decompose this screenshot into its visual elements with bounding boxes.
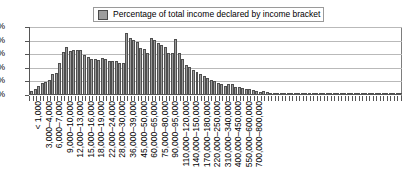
x-axis-label: 6,000–7,000 bbox=[55, 101, 64, 148]
legend-swatch-icon bbox=[98, 10, 108, 20]
y-axis-label: 4% bbox=[0, 36, 5, 45]
x-axis-label: 15,000–16,000 bbox=[87, 101, 96, 158]
plot-area bbox=[29, 27, 401, 95]
x-axis-label: < 1,000 bbox=[34, 101, 43, 130]
x-axis-label: 170,000–180,000 bbox=[203, 101, 212, 167]
x-axis-label: 310,000–340,000 bbox=[224, 101, 233, 167]
x-axis-label: 9,000–10,000 bbox=[66, 101, 75, 153]
x-axis-label: 45,000–50,000 bbox=[140, 101, 149, 158]
y-axis-label: 2% bbox=[0, 63, 5, 72]
x-axis-label: 400,000–450,000 bbox=[234, 101, 243, 167]
x-axis-labels: < 1,0003,000–4,0006,000–7,0009,000–10,00… bbox=[29, 101, 402, 185]
x-axis-label: 18,000–19,000 bbox=[97, 101, 106, 158]
x-axis-label: 550,000–600,000 bbox=[245, 101, 254, 167]
bar-series bbox=[30, 26, 402, 94]
x-axis-label: 36,000–39,000 bbox=[129, 101, 138, 158]
x-axis-label: 75,000–80,000 bbox=[161, 101, 170, 158]
x-axis-label: 90,000–95,000 bbox=[171, 101, 180, 158]
x-axis-label: 60,000–65,000 bbox=[150, 101, 159, 158]
y-axis-label: 3% bbox=[0, 49, 5, 58]
x-axis-label: 12,000–13,000 bbox=[76, 101, 85, 158]
y-axis-label: 1% bbox=[0, 76, 5, 85]
x-axis-label: 28,000–30,000 bbox=[118, 101, 127, 158]
y-axis-label: 0% bbox=[0, 90, 5, 99]
chart-figure: Percentage of total income declared by i… bbox=[0, 0, 409, 185]
x-axis-label: 22,000–24,000 bbox=[108, 101, 117, 158]
x-axis-label: 3,000–4,000 bbox=[45, 101, 54, 148]
x-axis-label: 220,000–250,000 bbox=[213, 101, 222, 167]
bar bbox=[399, 93, 402, 94]
legend-label: Percentage of total income declared by i… bbox=[113, 10, 320, 19]
x-axis-label: 700,000–800,000 bbox=[255, 101, 264, 167]
x-axis-label: 110,000–120,000 bbox=[182, 101, 191, 167]
chart-legend: Percentage of total income declared by i… bbox=[93, 7, 324, 22]
y-axis-label: 5% bbox=[0, 22, 5, 31]
x-axis-label: 140,000–150,000 bbox=[192, 101, 201, 167]
